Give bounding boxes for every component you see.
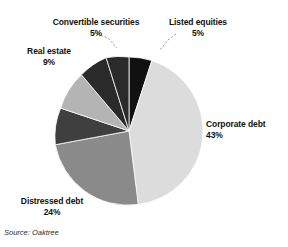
slice-label-corporate-debt-value: 43% bbox=[206, 130, 286, 141]
slice-label-distressed-debt-name: Distressed debt bbox=[21, 196, 83, 206]
slice-label-listed-equities-value: 5% bbox=[156, 28, 240, 39]
slice-label-real-estate: Real estate 9% bbox=[8, 46, 90, 67]
slice-label-convertible-securities: Convertible securities 5% bbox=[38, 17, 154, 38]
slice-label-corporate-debt-name: Corporate debt bbox=[206, 119, 266, 129]
slice-label-convertible-securities-name: Convertible securities bbox=[53, 17, 140, 27]
slice-label-listed-equities-name: Listed equities bbox=[169, 17, 227, 27]
source-note: Source: Oaktree bbox=[4, 228, 59, 237]
slice-label-corporate-debt: Corporate debt 43% bbox=[206, 119, 286, 140]
slice-label-real-estate-name: Real estate bbox=[27, 46, 71, 56]
slice-label-real-estate-value: 9% bbox=[8, 57, 90, 68]
slice-label-convertible-securities-value: 5% bbox=[38, 28, 154, 39]
slice-label-distressed-debt: Distressed debt 24% bbox=[4, 196, 100, 217]
slice-label-distressed-debt-value: 24% bbox=[4, 207, 100, 218]
pie-chart: Convertible securities 5% Listed equitie… bbox=[0, 0, 288, 247]
slice-label-listed-equities: Listed equities 5% bbox=[156, 17, 240, 38]
